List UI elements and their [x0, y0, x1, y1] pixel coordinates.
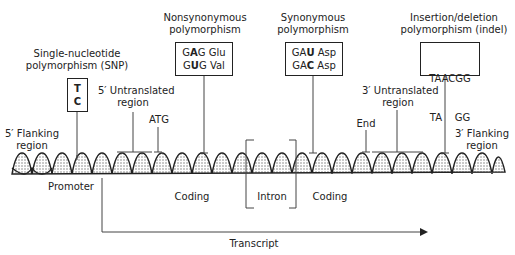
intron-label: Intron — [252, 191, 292, 203]
five-utr-label: 5′ Untranslated region — [98, 85, 168, 109]
three-utr-label: 3′ Untranslated region — [362, 85, 434, 109]
indel-box: TAACGG TA GG — [420, 42, 480, 76]
dna-helix — [12, 153, 505, 174]
promoter-label: Promoter — [46, 181, 96, 193]
transcript-label: Transcript — [224, 238, 284, 250]
synonymous-title: Synonymous polymorphism — [270, 12, 356, 36]
end-label: End — [354, 118, 378, 130]
three-flank-label: 3′ Flanking region — [452, 128, 512, 152]
snp-box: T C — [67, 78, 88, 112]
snp-title: Single-nucleotide polymorphism (SNP) — [24, 48, 130, 72]
synonymous-box: GAU Asp GAC Asp — [285, 42, 343, 76]
coding-label-2: Coding — [310, 191, 350, 203]
five-flank-label: 5′ Flanking region — [2, 128, 62, 152]
nonsynonymous-box: GAG Glu GUG Val — [175, 42, 233, 76]
indel-title: Insertion/deletion polymorphism (indel) — [398, 12, 510, 36]
nonsynonymous-title: Nonsynonymous polymorphism — [160, 12, 250, 36]
coding-label-1: Coding — [172, 191, 212, 203]
transcript-arrowhead — [420, 228, 428, 236]
atg-label: ATG — [148, 114, 170, 126]
